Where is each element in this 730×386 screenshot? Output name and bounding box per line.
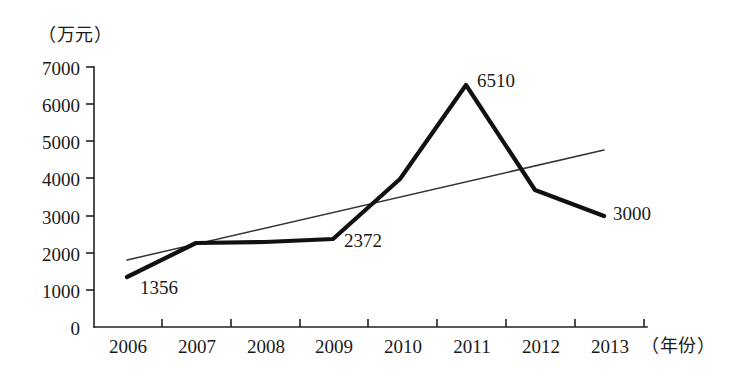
x-tick-label-2009: 2009 xyxy=(305,337,363,356)
x-tick-label-2011: 2011 xyxy=(443,337,501,356)
line-chart: （万元） xyxy=(0,0,730,386)
y-tick-label-0: 0 xyxy=(24,319,80,338)
x-tick-label-2013: 2013 xyxy=(581,337,639,356)
x-tick-label-2010: 2010 xyxy=(374,337,432,356)
y-tick-label-7000: 7000 xyxy=(24,59,80,78)
y-tick-label-4000: 4000 xyxy=(24,170,80,189)
x-tick-label-2012: 2012 xyxy=(512,337,570,356)
data-label-2006: 1356 xyxy=(140,278,178,297)
y-tick-label-1000: 1000 xyxy=(24,282,80,301)
y-tick-label-6000: 6000 xyxy=(24,96,80,115)
x-axis-ticks xyxy=(162,319,644,327)
data-label-2011: 6510 xyxy=(477,71,515,90)
chart-canvas xyxy=(0,0,730,386)
x-axis-unit-label: （年份） xyxy=(641,337,715,355)
x-tick-label-2008: 2008 xyxy=(237,337,295,356)
data-label-2013: 3000 xyxy=(613,204,651,223)
y-tick-label-5000: 5000 xyxy=(24,133,80,152)
y-tick-label-2000: 2000 xyxy=(24,245,80,264)
x-tick-label-2007: 2007 xyxy=(168,337,226,356)
x-tick-label-2006: 2006 xyxy=(99,337,157,356)
y-tick-label-3000: 3000 xyxy=(24,208,80,227)
y-axis-ticks xyxy=(86,67,94,290)
data-label-2009: 2372 xyxy=(344,231,382,250)
